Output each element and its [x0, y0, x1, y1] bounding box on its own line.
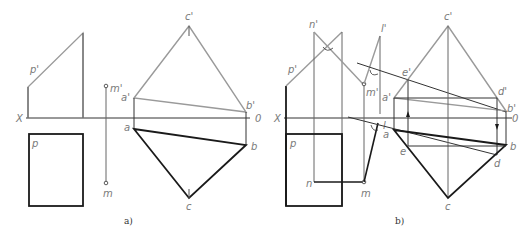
label-e-prime: e' [402, 67, 411, 78]
label-b-prime: b' [246, 100, 255, 111]
label-p: p [289, 138, 296, 149]
panel-a: X 0 p' p m' m c' a' b' a b c a) [15, 11, 261, 226]
arrow-up-icon [406, 111, 410, 117]
label-d-prime: d' [498, 86, 507, 97]
label-p-prime: p' [287, 64, 297, 75]
axis-label-x: X [273, 113, 282, 124]
label-c: c [186, 201, 192, 212]
label-n: n [306, 178, 312, 189]
label-c-prime: c' [444, 11, 452, 22]
label-a-prime: a' [121, 92, 130, 103]
panel-b: X 0 p' n' p n m' m l' l [273, 11, 518, 226]
axis-label-o: 0 [512, 113, 518, 124]
label-a: a [383, 129, 389, 140]
label-a: a [124, 122, 130, 133]
label-b-prime: b' [507, 103, 516, 114]
label-b: b [251, 141, 257, 152]
line-n-prime-m-prime [314, 32, 363, 84]
projection-diagram: X 0 p' p m' m c' a' b' a b c a) [0, 0, 530, 239]
horizontal-line-top [348, 117, 497, 155]
label-b: b [510, 141, 516, 152]
arrow-down-icon [495, 124, 499, 130]
label-p: p [31, 138, 38, 149]
label-a-prime: a' [382, 92, 391, 103]
label-m-prime: m' [366, 87, 379, 98]
plane-p-front-view [28, 33, 83, 118]
label-l-prime: l' [381, 23, 387, 34]
point-m [104, 181, 108, 185]
triangle-abc-top-view [394, 130, 506, 198]
axis-label-o: 0 [255, 113, 261, 124]
caption-b: b) [395, 216, 404, 226]
label-c: c [445, 201, 451, 212]
right-angle-mark-l-prime [370, 70, 378, 75]
label-m: m [103, 188, 113, 199]
line-l [364, 123, 378, 182]
label-d: d [494, 158, 501, 169]
axis-label-x: X [15, 113, 24, 124]
line-l-prime [364, 36, 380, 84]
label-e: e [400, 146, 406, 157]
triangle-abc-front-view [134, 26, 246, 112]
point-m-prime [104, 84, 108, 88]
label-m: m [361, 188, 371, 199]
caption-a: a) [124, 216, 133, 226]
frontal-line-e-prime-b-prime [357, 63, 506, 112]
label-p-prime: p' [29, 64, 39, 75]
label-n-prime: n' [309, 19, 318, 30]
triangle-abc-top-view [134, 129, 246, 198]
label-c-prime: c' [185, 11, 193, 22]
